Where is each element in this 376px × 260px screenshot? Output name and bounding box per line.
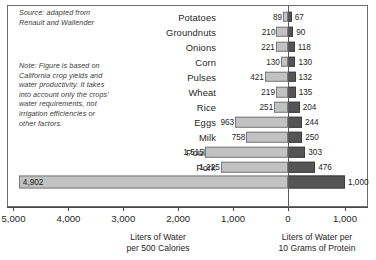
bar-right-milk — [288, 132, 302, 143]
source-note: Source: adapted from Renault and Wallend… — [19, 8, 144, 27]
axis-tick-label: 3,000 — [111, 213, 135, 224]
axis-tick — [123, 207, 124, 211]
axis-tick — [13, 207, 14, 211]
bar-right-corn — [288, 57, 295, 68]
bar-right-pulses — [288, 72, 296, 83]
category-label: Onions — [186, 41, 216, 52]
zero-axis-line — [288, 6, 289, 206]
value-label-right: 135 — [299, 88, 313, 97]
axis-tick-label: 5,000 — [1, 213, 25, 224]
table-row: Milk758250 — [8, 130, 369, 145]
table-row: Beef4,9021,000 — [8, 175, 369, 190]
axis-tick-label: 1,000 — [333, 213, 357, 224]
value-label-right: 303 — [308, 148, 322, 157]
value-label-right: 90 — [296, 27, 305, 36]
bar-right-rice — [288, 102, 300, 113]
bar-left-poultry — [205, 147, 288, 158]
axis-tick-label: 2,000 — [166, 213, 190, 224]
table-row: Onions221118 — [8, 40, 369, 55]
bar-left-wheat — [276, 87, 288, 98]
figure-note: Note: Figure is based on California crop… — [19, 61, 147, 128]
value-label-right: 132 — [299, 72, 313, 81]
bar-left-pork — [221, 162, 288, 173]
value-label-left: 421 — [250, 72, 264, 81]
value-label-left: 1,515 — [183, 148, 204, 157]
bar-left-rice — [274, 102, 288, 113]
axis-tick-label: 1,000 — [221, 213, 245, 224]
bar-left-pulses — [265, 72, 288, 83]
value-label-left: 251 — [260, 103, 274, 112]
axis-tick — [68, 207, 69, 211]
axis-tick — [288, 207, 289, 211]
category-label: Pulses — [187, 71, 216, 82]
category-label: Corn — [195, 56, 216, 67]
bar-right-wheat — [288, 87, 296, 98]
value-label-right: 130 — [298, 57, 312, 66]
value-label-left: 4,902 — [23, 178, 44, 187]
value-label-right: 118 — [298, 42, 311, 51]
value-label-left: 130 — [266, 57, 280, 66]
value-label-left: 89 — [273, 12, 282, 21]
value-label-left: 210 — [262, 27, 276, 36]
bar-left-groundnuts — [276, 27, 288, 38]
table-row: Poultry1,515303 — [8, 145, 369, 160]
x-axis-line — [7, 207, 368, 208]
bar-right-poultry — [288, 147, 305, 158]
axis-tick — [345, 207, 346, 211]
category-label: Eggs — [194, 117, 216, 128]
bar-right-pork — [288, 162, 315, 173]
bar-left-corn — [281, 57, 288, 68]
bar-left-beef — [19, 176, 288, 189]
value-label-left: 1,225 — [199, 163, 220, 172]
axis-tick-label: 0 — [285, 213, 290, 224]
value-label-left: 758 — [232, 133, 246, 142]
value-label-left: 963 — [220, 118, 234, 127]
value-label-right: 204 — [303, 103, 317, 112]
category-label: Wheat — [188, 87, 216, 98]
value-label-right: 244 — [305, 118, 319, 127]
bar-right-beef — [288, 176, 345, 189]
category-label: Groundnuts — [166, 26, 216, 37]
chart-figure: Potatoes8967Groundnuts21090Onions221118C… — [0, 0, 376, 260]
bar-right-onions — [288, 42, 295, 53]
value-label-right: 67 — [295, 12, 304, 21]
bar-left-onions — [276, 42, 288, 53]
table-row: Pork1,225476 — [8, 160, 369, 175]
category-label: Potatoes — [178, 11, 216, 22]
axis-tick — [233, 207, 234, 211]
bar-right-eggs — [288, 117, 302, 128]
value-label-left: 219 — [261, 88, 275, 97]
value-label-right: 1,000 — [348, 178, 369, 187]
value-label-left: 221 — [261, 42, 275, 51]
value-label-right: 250 — [305, 133, 319, 142]
bar-left-milk — [246, 132, 288, 143]
x-axis-title-right: Liters of Water per 10 Grams of Protein — [258, 232, 376, 253]
axis-tick — [178, 207, 179, 211]
category-label: Milk — [199, 132, 216, 143]
category-label: Rice — [197, 102, 216, 113]
axis-tick-label: 4,000 — [56, 213, 80, 224]
bar-left-eggs — [235, 117, 288, 128]
x-axis-title-left: Liters of Water per 500 Calories — [92, 232, 224, 253]
value-label-right: 476 — [318, 163, 332, 172]
